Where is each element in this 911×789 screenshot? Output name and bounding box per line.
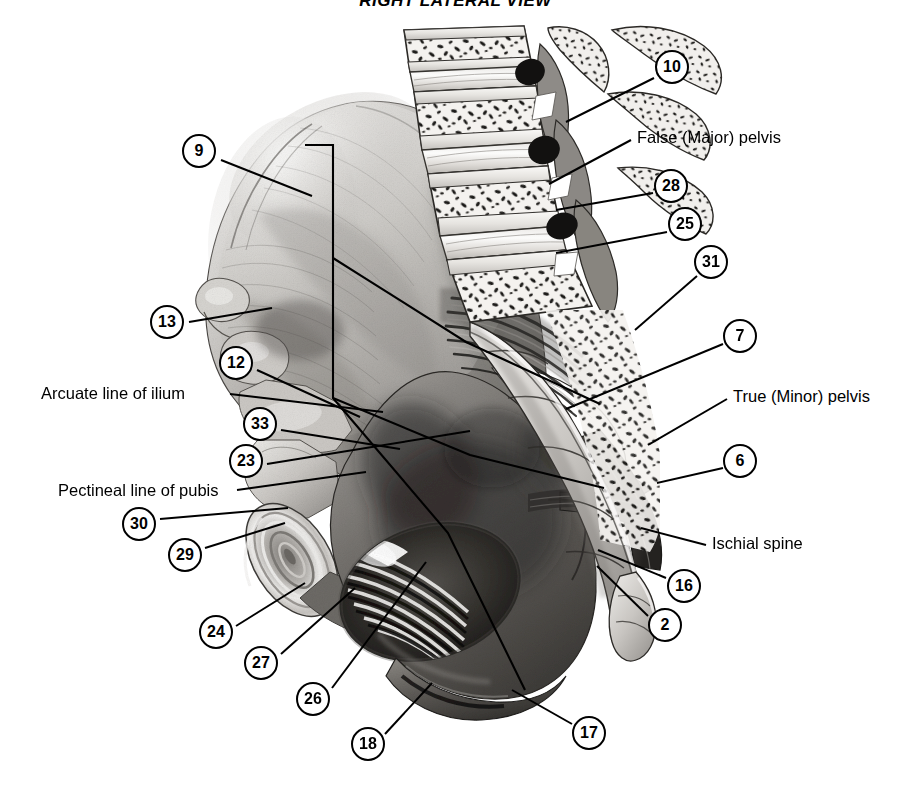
reference-circle-31[interactable]: 31 xyxy=(694,245,728,279)
reference-circle-7[interactable]: 7 xyxy=(723,319,757,353)
figure-page: RIGHT LATERAL VIEW xyxy=(0,0,911,789)
callout-label-false-pelvis: False (Major) pelvis xyxy=(637,128,781,147)
reference-circle-6[interactable]: 6 xyxy=(723,444,757,478)
vertebral-body-1 xyxy=(404,26,532,72)
reference-circle-13[interactable]: 13 xyxy=(150,305,184,339)
reference-circle-10[interactable]: 10 xyxy=(655,50,689,84)
reference-circle-25[interactable]: 25 xyxy=(668,207,702,241)
reference-circle-26[interactable]: 26 xyxy=(296,682,330,716)
leader-31 xyxy=(635,276,697,330)
reference-circle-9[interactable]: 9 xyxy=(182,134,216,168)
leader-true-pelvis xyxy=(648,399,727,445)
vertebral-body-3 xyxy=(428,166,560,236)
reference-circle-29[interactable]: 29 xyxy=(168,538,202,572)
spinous-process xyxy=(608,92,710,160)
vertebral-body-2 xyxy=(414,86,544,150)
reference-circle-12[interactable]: 12 xyxy=(219,346,253,380)
reference-circle-2[interactable]: 2 xyxy=(648,608,682,642)
reference-circle-28[interactable]: 28 xyxy=(654,169,688,203)
reference-circle-18[interactable]: 18 xyxy=(351,727,385,761)
callout-label-pectineal-line: Pectineal line of pubis xyxy=(58,481,219,500)
reference-circle-17[interactable]: 17 xyxy=(572,716,606,750)
callout-label-arcuate-line: Arcuate line of ilium xyxy=(41,384,185,403)
leader-25 xyxy=(556,232,667,253)
leader-6 xyxy=(657,468,723,483)
reference-circle-27[interactable]: 27 xyxy=(244,646,278,680)
callout-label-true-pelvis: True (Minor) pelvis xyxy=(733,387,870,406)
reference-circle-24[interactable]: 24 xyxy=(199,615,233,649)
reference-circle-16[interactable]: 16 xyxy=(667,569,701,603)
reference-circle-33[interactable]: 33 xyxy=(243,407,277,441)
reference-circle-23[interactable]: 23 xyxy=(229,444,263,478)
reference-circle-30[interactable]: 30 xyxy=(122,507,156,541)
callout-label-ischial-spine: Ischial spine xyxy=(712,534,803,553)
